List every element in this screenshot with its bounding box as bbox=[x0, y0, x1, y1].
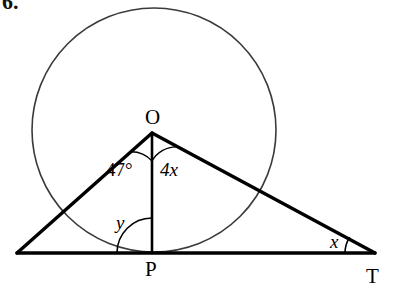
angle-label-x: x bbox=[330, 232, 338, 251]
point-label-p: P bbox=[145, 259, 157, 280]
angle-label-47-degrees: 47° bbox=[106, 160, 133, 179]
angle-label-4x: 4x bbox=[160, 160, 178, 179]
segment-right-leg bbox=[152, 133, 375, 253]
angle-arc-o-left bbox=[131, 152, 152, 161]
angle-label-y: y bbox=[116, 213, 124, 232]
segment-left-leg bbox=[17, 133, 152, 253]
geometry-figure: 6. O P T 47° 4x y x bbox=[0, 0, 397, 289]
point-label-t: T bbox=[366, 266, 379, 287]
circle-shape bbox=[32, 8, 276, 252]
point-label-o: O bbox=[145, 107, 160, 128]
